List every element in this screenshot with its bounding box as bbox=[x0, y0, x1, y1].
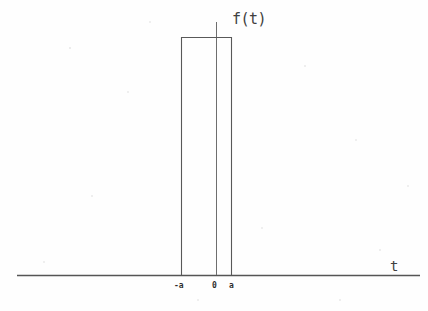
tick-label-neg-a: -a bbox=[174, 281, 184, 290]
function-label: f(t) bbox=[232, 10, 266, 28]
scan-noise bbox=[43, 21, 409, 301]
tick-label-pos-a: a bbox=[229, 281, 234, 290]
t-axis-label: t bbox=[390, 258, 398, 274]
tick-label-zero: 0 bbox=[212, 281, 217, 290]
figure-canvas: f(t) t -a 0 a bbox=[0, 0, 428, 311]
rectangular-pulse-plot bbox=[0, 0, 428, 311]
